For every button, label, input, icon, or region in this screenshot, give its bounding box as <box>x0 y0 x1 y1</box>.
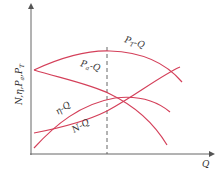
pump-performance-chart: PT-Q Pa-Q η-Q N-Q N,η,Pa,PT Q <box>0 0 224 181</box>
y-axis-label: N,η,Pa,PT <box>14 63 25 106</box>
pa-q-label: Pa-Q <box>78 58 102 74</box>
chart-canvas: PT-Q Pa-Q η-Q N-Q N,η,Pa,PT Q <box>0 0 224 181</box>
eta-q-label: η-Q <box>53 99 72 117</box>
pt-q-curve <box>34 51 182 82</box>
pt-q-label: PT-Q <box>122 34 146 51</box>
x-axis-label: Q <box>202 159 210 169</box>
